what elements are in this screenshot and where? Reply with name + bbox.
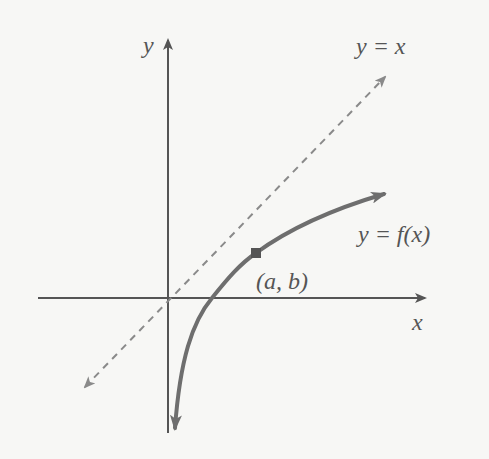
function-label: y = f(x)	[358, 222, 430, 246]
identity-line-dashed	[85, 77, 385, 387]
point-ab-marker	[251, 248, 261, 258]
y-axis-label: y	[143, 33, 154, 57]
function-curve	[175, 194, 384, 428]
x-axis-label: x	[412, 310, 423, 334]
identity-line-label: y = x	[356, 34, 406, 58]
function-graph-diagram: y x y = x y = f(x) (a, b)	[0, 0, 489, 459]
point-label: (a, b)	[256, 269, 308, 293]
